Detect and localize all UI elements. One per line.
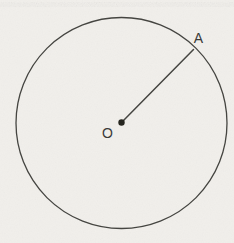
center-label-O: O xyxy=(102,125,113,141)
geometry-figure: O A xyxy=(0,0,234,243)
point-label-A: A xyxy=(194,30,204,46)
center-point-dot xyxy=(118,119,124,125)
scanned-figure: O A xyxy=(0,0,234,243)
scan-artifact-band xyxy=(0,2,234,7)
